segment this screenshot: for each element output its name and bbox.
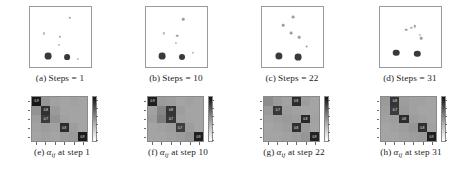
heatmap-cell [78, 123, 87, 132]
heatmap-cell: 0.9 [427, 132, 436, 141]
heatmap-cell [292, 115, 301, 124]
heatmap-cell [310, 97, 319, 106]
heatmap-cell [157, 123, 166, 132]
heatmap-cell [310, 115, 319, 124]
heatmap-cell [427, 123, 436, 132]
heatmap-cell [264, 123, 273, 132]
heatmap-cell [41, 123, 50, 132]
heatmap-cell: 0.8 [292, 97, 301, 106]
heatmap-cell [176, 132, 185, 141]
heatmap-cell: 0.8 [166, 106, 175, 115]
heatmap-block-f: 0.90.80.70.70.9 [147, 96, 204, 142]
target-dot [175, 42, 177, 44]
heatmap-cell [409, 132, 418, 141]
heatmap-cell [427, 115, 436, 124]
caption-c-label: (c) [265, 73, 276, 83]
heatmap-cell [185, 132, 194, 141]
heatmap-cell: 0.9 [310, 132, 319, 141]
heatmap-cell [176, 115, 185, 124]
target-dot [192, 51, 194, 53]
scatter-plot-a [29, 6, 92, 68]
heatmap-cell [194, 106, 203, 115]
caption-g-subscript: ij [281, 151, 285, 158]
caption-h-label: (h) [380, 147, 391, 157]
heatmap-cell: 0.9 [78, 132, 87, 141]
caption-a-label: (a) [36, 73, 47, 83]
heatmap-cell [194, 115, 203, 124]
heatmap-cell [41, 132, 50, 141]
heatmap-cell [60, 115, 69, 124]
heatmap-cell: 0.9 [194, 132, 203, 141]
heatmap-cell [32, 123, 41, 132]
heatmap-cell [301, 97, 310, 106]
heatmap-cell [301, 132, 310, 141]
colorbar-e [92, 96, 97, 142]
caption-g-mid: at step [288, 147, 313, 157]
heatmap-block-g: 0.80.70.80.80.9 [263, 96, 320, 142]
heatmap-cell [166, 132, 175, 141]
caption-d-value: 31 [427, 73, 437, 83]
target-dot [282, 24, 285, 27]
heatmap-cell [69, 97, 78, 106]
heatmap-cell [194, 97, 203, 106]
target-dot [43, 32, 45, 34]
heatmap-cell [69, 106, 78, 115]
heatmap-wrap-g: 0.80.70.80.80.9 [240, 96, 348, 142]
heatmap-cell [427, 97, 436, 106]
heatmap-cell [166, 97, 175, 106]
heatmap-cell [390, 132, 399, 141]
heatmap-cell: 0.7 [166, 115, 175, 124]
heatmap-cell [418, 115, 427, 124]
scatter-plot-d [379, 6, 442, 68]
heatmap-xticks-h [380, 142, 437, 145]
target-dot [420, 37, 423, 40]
heatmap-cell [264, 97, 273, 106]
heatmap-cell [148, 123, 157, 132]
heatmap-cell [292, 106, 301, 115]
target-dot [289, 32, 292, 35]
heatmap-cell [390, 123, 399, 132]
caption-c-value: 22 [309, 73, 319, 83]
agent-dot [44, 53, 51, 60]
heatmap-cell [282, 106, 291, 115]
heatmap-cell [148, 132, 157, 141]
heatmap-cell [60, 97, 69, 106]
caption-h-value: 31 [432, 147, 442, 157]
heatmap-cell-value: 0.8 [169, 109, 173, 112]
heatmap-cell: 0.8 [292, 123, 301, 132]
target-dot [419, 34, 421, 36]
heatmap-cell: 0.8 [60, 123, 69, 132]
heatmap-cell [185, 115, 194, 124]
caption-d-equals: = [420, 73, 425, 83]
heatmap-cell [32, 106, 41, 115]
heatmap-cell-value: 0.7 [169, 118, 173, 121]
caption-g: (g)αij at step 22 [240, 146, 348, 161]
heatmap-cell [273, 115, 282, 124]
heatmap-cell [157, 132, 166, 141]
heatmap-cell [194, 123, 203, 132]
heatmap-block-h: 0.80.70.80.80.9 [380, 96, 437, 142]
heatmap-cell [50, 97, 59, 106]
heatmap-cell [399, 97, 408, 106]
heatmap-cell [418, 106, 427, 115]
heatmap-cell [60, 106, 69, 115]
heatmap-cell [157, 106, 166, 115]
heatmap-cell [148, 106, 157, 115]
heatmap-cell [50, 115, 59, 124]
heatmap-cell-value: 0.8 [393, 100, 397, 103]
heatmap-cell [185, 123, 194, 132]
heatmap-cell [32, 132, 41, 141]
target-dot [69, 17, 71, 19]
heatmap-cell-value: 0.9 [80, 135, 84, 138]
heatmap-cell [273, 132, 282, 141]
caption-f: (f)αij at step 10 [124, 146, 232, 161]
heatmap-cell [78, 106, 87, 115]
caption-g-value: 22 [315, 147, 325, 157]
caption-b: (b)Steps=10 [124, 72, 228, 84]
target-dot [298, 36, 301, 39]
heatmap-cell [50, 106, 59, 115]
target-dot [405, 29, 408, 32]
heatmap-cell [60, 132, 69, 141]
heatmap-f: 0.90.80.70.70.9 [147, 96, 204, 142]
panel-d: (d)Steps=31 [356, 6, 464, 84]
